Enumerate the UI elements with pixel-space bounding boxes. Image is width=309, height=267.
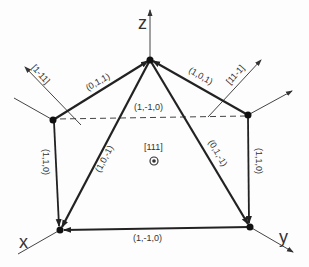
vertex-left: [50, 117, 57, 124]
z-axis-label: z: [138, 13, 147, 33]
direction-1-11-label: [1-11]: [30, 63, 52, 86]
edge-y-to-x-label: (1,-1,0): [133, 233, 162, 243]
edge-dashed: [57, 116, 246, 119]
vertex-x: [57, 227, 64, 234]
edge-dashed-label: (1,-1,0): [134, 102, 163, 112]
edge-left-to-x: [54, 122, 59, 226]
vertex-y: [247, 224, 254, 231]
crystal-direction-diagram: z x y [1-11] [11-1] [111] (0,1,1) (1,0,1…: [0, 0, 309, 267]
direction-11-1-label: [11-1]: [224, 63, 246, 86]
edge-left-to-x-label: (1,1,0): [41, 149, 51, 175]
y-axis-label: y: [279, 227, 288, 247]
vertex-top: [147, 57, 154, 64]
right-vertex-axis: [248, 91, 292, 115]
direction-111-label: [111]: [144, 142, 163, 152]
vertex-right: [245, 112, 252, 119]
left-vertex-axis: [14, 98, 53, 120]
edge-top-to-x-label: (1,0,-1): [93, 144, 115, 174]
direction-111-dot: [152, 159, 156, 163]
edge-right-to-y: [248, 117, 249, 223]
direction-1-11-arrow: [25, 67, 81, 125]
edge-left-to-top-label: (0,1,1): [84, 71, 112, 93]
edge-y-to-x: [64, 227, 250, 230]
diagram-svg: z x y [1-11] [11-1] [111] (0,1,1) (1,0,1…: [0, 0, 309, 267]
edge-right-to-y-label: (1,1,0): [254, 148, 264, 174]
x-axis-label: x: [19, 232, 28, 252]
edge-top-to-y-label: (0,1,-1): [206, 138, 229, 168]
edge-top-to-y: [150, 60, 248, 224]
